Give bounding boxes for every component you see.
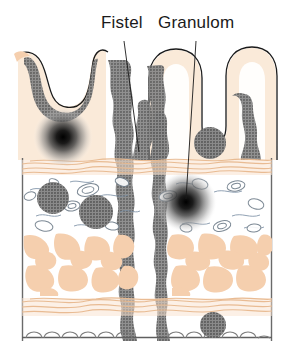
figure-canvas: Fistel Granulom	[0, 0, 294, 364]
granuloma-submucosa-1	[37, 182, 69, 214]
subserosa-band	[22, 298, 272, 316]
granuloma-villus-right	[194, 127, 226, 159]
granuloma-submucosa-2	[79, 195, 113, 229]
histology-illustration	[0, 0, 294, 364]
granuloma-labeled	[155, 171, 217, 233]
serosa-layer	[22, 332, 272, 338]
muscle-bundles	[23, 234, 273, 296]
granuloma-serosa	[200, 312, 226, 338]
muscularis-propria	[23, 234, 273, 296]
aphthous-ulcer-left-granuloma	[33, 107, 93, 167]
